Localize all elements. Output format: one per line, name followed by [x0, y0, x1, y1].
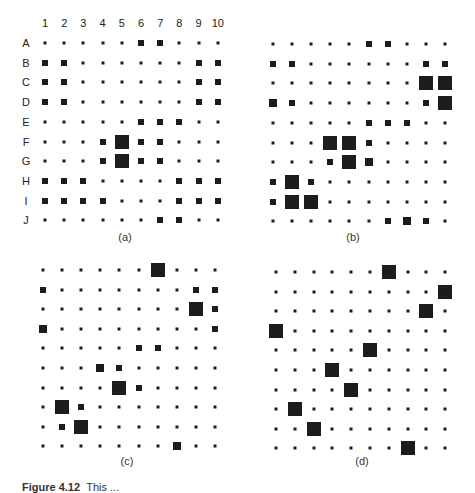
matrix-dot — [61, 308, 64, 311]
matrix-dot — [405, 43, 408, 46]
matrix-dot — [331, 427, 334, 430]
matrix-dot — [386, 102, 389, 105]
matrix-dot — [99, 406, 102, 409]
matrix-dot — [120, 101, 123, 104]
matrix-dot — [80, 327, 83, 330]
matrix-dot — [178, 160, 181, 163]
matrix-dot — [61, 288, 64, 291]
matrix-dot — [272, 141, 275, 144]
matrix-square — [173, 442, 181, 450]
matrix-square — [385, 218, 391, 224]
matrix-dot — [159, 81, 162, 84]
matrix-dot — [82, 160, 85, 163]
matrix-dot — [61, 269, 64, 272]
matrix-dot — [140, 219, 143, 222]
figure-number: Figure 4.12 — [22, 481, 80, 493]
matrix-dot — [118, 425, 121, 428]
matrix-dot — [444, 369, 447, 372]
matrix-square — [100, 139, 106, 145]
matrix-dot — [194, 327, 197, 330]
matrix-dot — [424, 180, 427, 183]
matrix-dot — [120, 199, 123, 202]
matrix-dot — [82, 140, 85, 143]
matrix-dot — [213, 347, 216, 350]
matrix-dot — [406, 310, 409, 313]
matrix-square — [285, 175, 299, 189]
matrix-dot — [348, 82, 351, 85]
matrix-dot — [194, 406, 197, 409]
matrix-dot — [272, 220, 275, 223]
matrix-dot — [424, 200, 427, 203]
matrix-dot — [216, 140, 219, 143]
matrix-dot — [101, 42, 104, 45]
matrix-dot — [387, 290, 390, 293]
matrix-dot — [101, 219, 104, 222]
matrix-dot — [175, 308, 178, 311]
matrix-dot — [425, 349, 428, 352]
matrix-dot — [156, 406, 159, 409]
matrix-square — [189, 302, 203, 316]
matrix-dot — [82, 81, 85, 84]
matrix-dot — [42, 406, 45, 409]
matrix-square — [157, 40, 163, 46]
matrix-dot — [63, 140, 66, 143]
row-label: J — [23, 214, 29, 226]
matrix-dot — [425, 271, 428, 274]
matrix-dot — [348, 220, 351, 223]
matrix-dot — [178, 42, 181, 45]
matrix-dot — [369, 388, 372, 391]
matrix-dot — [101, 179, 104, 182]
matrix-dot — [387, 427, 390, 430]
matrix-dot — [331, 329, 334, 332]
matrix-square — [138, 158, 144, 164]
matrix-square — [363, 343, 377, 357]
matrix-dot — [197, 219, 200, 222]
matrix-square — [438, 285, 452, 299]
matrix-dot — [312, 271, 315, 274]
matrix-dot — [99, 288, 102, 291]
matrix-dot — [137, 308, 140, 311]
matrix-dot — [293, 447, 296, 450]
matrix-square — [419, 76, 433, 90]
matrix-dot — [178, 101, 181, 104]
matrix-dot — [406, 369, 409, 372]
matrix-square — [157, 217, 163, 223]
matrix-square — [80, 178, 86, 184]
matrix-dot — [424, 141, 427, 144]
matrix-square — [157, 158, 163, 164]
matrix-dot — [387, 408, 390, 411]
matrix-dot — [329, 180, 332, 183]
matrix-square — [289, 61, 295, 67]
figure-caption: Figure 4.12 This ... — [22, 481, 119, 493]
matrix-square — [289, 100, 295, 106]
matrix-square — [403, 217, 411, 225]
column-label: 2 — [61, 17, 67, 29]
matrix-dot — [291, 161, 294, 164]
matrix-dot — [140, 199, 143, 202]
matrix-square — [80, 198, 86, 204]
matrix-square — [176, 119, 182, 125]
matrix-dot — [82, 120, 85, 123]
matrix-dot — [387, 369, 390, 372]
matrix-dot — [216, 120, 219, 123]
matrix-dot — [348, 200, 351, 203]
matrix-dot — [310, 82, 313, 85]
matrix-dot — [369, 408, 372, 411]
matrix-square — [327, 159, 333, 165]
matrix-square — [193, 287, 199, 293]
matrix-square — [136, 385, 142, 391]
matrix-square — [215, 198, 221, 204]
row-label: F — [23, 136, 30, 148]
matrix-dot — [197, 120, 200, 123]
matrix-dot — [367, 82, 370, 85]
matrix-dot — [443, 141, 446, 144]
matrix-dot — [272, 121, 275, 124]
matrix-dot — [367, 62, 370, 65]
matrix-dot — [140, 101, 143, 104]
matrix-square — [196, 178, 202, 184]
panel-caption: (d) — [355, 455, 368, 467]
matrix-dot — [118, 288, 121, 291]
row-label: H — [22, 175, 30, 187]
matrix-dot — [387, 388, 390, 391]
matrix-dot — [312, 408, 315, 411]
